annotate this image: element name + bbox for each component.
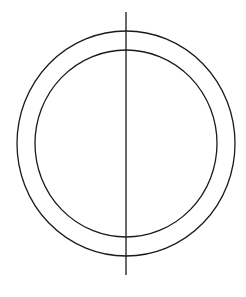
diagram-canvas — [0, 0, 246, 297]
